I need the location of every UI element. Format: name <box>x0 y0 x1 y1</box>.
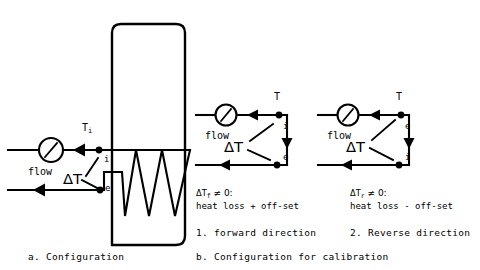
top-label-fwd: T <box>274 92 280 102</box>
caption-panel-a: a. Configuration <box>28 252 124 262</box>
flow-label-a: flow <box>28 167 52 177</box>
junction-label-e-fwd: e <box>283 153 288 162</box>
delta-t-label-rev: ΔT <box>346 140 365 155</box>
junction-dot-e-a <box>97 187 104 194</box>
flow-label-fwd: flow <box>205 131 229 141</box>
junction-label-e-rev: e <box>405 122 410 131</box>
figure-canvas: Ti i e ΔT flow a. Configuration T i e ΔT… <box>0 0 480 270</box>
rev-thermocouple-lead-e <box>372 120 395 140</box>
delta-t-label-fwd: ΔT <box>224 140 243 155</box>
flow-arrow-inlet-rev <box>369 110 380 121</box>
junction-dot-e-fwd <box>274 162 281 169</box>
junction-label-i-a: i <box>104 155 109 164</box>
subpanel-title-fwd: 1. forward direction <box>196 228 316 238</box>
junction-dot-e-rev <box>398 112 405 119</box>
subpanel-title-rev: 2. Reverse direction <box>350 228 470 238</box>
heating-coil-zigzag <box>104 150 190 216</box>
equation-suffix-rev: ≠ 0: <box>365 188 387 198</box>
thermocouple-lead-e <box>82 180 99 189</box>
junction-label-i-rev: i <box>405 153 410 162</box>
junction-dot-i-rev <box>396 162 403 169</box>
thermocouple-lead-i <box>86 158 98 176</box>
delta-t-label-a: ΔT <box>63 172 82 187</box>
flow-arrow-down-fwd <box>282 138 293 149</box>
flow-arrow-down-rev <box>404 138 415 149</box>
junction-label-e-a: e <box>105 184 110 193</box>
junction-dot-i-a <box>96 147 103 154</box>
flow-arrow-inlet-a <box>73 144 85 157</box>
flow-arrow-outlet-fwd <box>219 160 230 171</box>
junction-label-i-fwd: i <box>283 122 288 131</box>
fwd-flow-meter-needle <box>221 109 231 121</box>
junction-dot-i-fwd <box>276 112 283 119</box>
equation-rev: ΔTr ≠ 0: <box>350 189 387 199</box>
top-label-rev: T <box>396 92 402 102</box>
flow-meter-needle <box>45 143 57 157</box>
fwd-thermocouple-lead-e <box>248 150 270 160</box>
caption-panel-b: b. Configuration for calibration <box>196 252 389 262</box>
flow-arrow-outlet-a <box>33 184 45 197</box>
equation-note-fwd: heat loss + off-set <box>196 202 299 211</box>
rev-flow-meter-needle <box>343 109 353 121</box>
flow-arrow-inlet-fwd <box>247 110 258 121</box>
equation-suffix-fwd: ≠ 0: <box>211 188 233 198</box>
inlet-temp-subscript: i <box>88 126 92 135</box>
fwd-thermocouple-lead-i <box>250 124 273 141</box>
inlet-temperature-label: Ti <box>82 123 92 134</box>
equation-note-rev: heat loss - off-set <box>350 202 453 211</box>
flow-label-rev: flow <box>327 131 351 141</box>
rev-thermocouple-lead-i <box>370 148 393 160</box>
equation-fwd: ΔTf ≠ 0: <box>196 189 233 199</box>
flow-arrow-outlet-rev <box>341 160 352 171</box>
